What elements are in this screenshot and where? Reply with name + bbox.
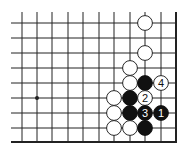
white-stone bbox=[138, 46, 153, 61]
white-stone bbox=[107, 91, 122, 106]
star-points bbox=[35, 96, 39, 100]
move-number-label: 4 bbox=[158, 77, 164, 89]
white-stone bbox=[107, 121, 122, 136]
stone-disc bbox=[123, 76, 138, 91]
white-stone-move-4: 4 bbox=[154, 76, 169, 91]
black-stone bbox=[138, 121, 153, 136]
stone-disc bbox=[123, 91, 138, 106]
stone-disc bbox=[123, 106, 138, 121]
stone-disc bbox=[138, 76, 153, 91]
stone-disc bbox=[138, 46, 153, 61]
black-stone bbox=[123, 91, 138, 106]
go-board-diagram: 4231 bbox=[0, 0, 188, 156]
move-number-label: 2 bbox=[142, 92, 148, 104]
stones: 4231 bbox=[107, 16, 169, 136]
move-number-label: 1 bbox=[158, 107, 164, 119]
stone-disc bbox=[138, 121, 153, 136]
move-number-label: 3 bbox=[142, 107, 148, 119]
white-stone bbox=[123, 76, 138, 91]
black-stone-move-3: 3 bbox=[138, 106, 153, 121]
white-stone bbox=[107, 106, 122, 121]
stone-disc bbox=[123, 61, 138, 76]
black-stone bbox=[138, 76, 153, 91]
white-stone bbox=[138, 16, 153, 31]
white-stone-move-2: 2 bbox=[138, 91, 153, 106]
black-stone bbox=[123, 106, 138, 121]
stone-disc bbox=[107, 121, 122, 136]
white-stone bbox=[123, 121, 138, 136]
stone-disc bbox=[107, 91, 122, 106]
white-stone bbox=[123, 61, 138, 76]
grid-lines bbox=[11, 12, 177, 142]
stone-disc bbox=[138, 16, 153, 31]
star-point bbox=[35, 96, 39, 100]
stone-disc bbox=[107, 106, 122, 121]
black-stone-move-1: 1 bbox=[154, 106, 169, 121]
stone-disc bbox=[123, 121, 138, 136]
